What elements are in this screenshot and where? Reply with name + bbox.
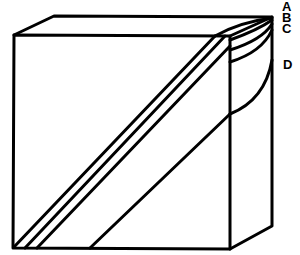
label-d: D: [283, 58, 292, 71]
plane-a-front: [14, 36, 215, 247]
cube-diagram: [0, 0, 300, 255]
plane-d-front: [90, 114, 230, 248]
label-c: C: [282, 22, 291, 35]
plane-d-side: [230, 60, 272, 114]
plane-c2-side: [230, 30, 272, 62]
plane-c-front: [37, 46, 230, 248]
